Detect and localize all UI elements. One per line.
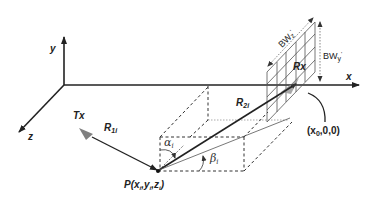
- tx-label: Tx: [73, 110, 85, 121]
- diagram-canvas: y x z Tx Rx R1i R2i αi βi P(xi,yi,zi) (x…: [0, 0, 368, 202]
- z-axis-label: z: [27, 131, 33, 142]
- rx-position-pointer: [308, 93, 325, 122]
- path-r1: [92, 137, 157, 170]
- transmitter: [79, 128, 93, 140]
- z-axis: [19, 85, 64, 132]
- bwy-label: BWy': [323, 51, 342, 63]
- beta-arc: [199, 156, 204, 171]
- path-beta-projection: [159, 118, 290, 170]
- y-axis-label: y: [49, 43, 56, 54]
- path-r2: [159, 84, 296, 170]
- tx-cone-icon: [79, 128, 93, 140]
- alpha-label: αi: [164, 136, 174, 150]
- rx-label: Rx: [293, 61, 306, 72]
- rx-position-label: (x0,0,0): [307, 125, 340, 137]
- beta-label: βi: [209, 152, 219, 166]
- point-p: [156, 169, 160, 173]
- axes: [19, 37, 359, 132]
- point-p-label: P(xi,yi,zi): [124, 179, 165, 191]
- x-axis-label: x: [345, 71, 352, 82]
- r2-label: R2i: [236, 97, 250, 109]
- r1-label: R1i: [104, 122, 118, 134]
